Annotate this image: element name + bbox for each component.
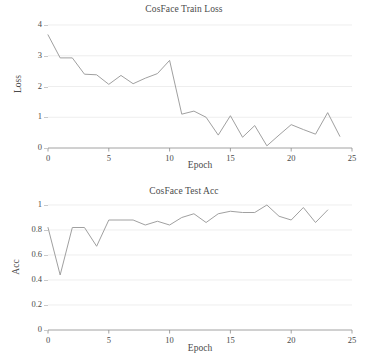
plot-canvas-acc <box>48 205 352 330</box>
x-tick-label-acc: 0 <box>33 335 63 345</box>
x-tick-label-loss: 15 <box>215 153 245 163</box>
x-tick-label-loss: 10 <box>155 153 185 163</box>
x-tick-label-acc: 5 <box>94 335 124 345</box>
y-tick-label-acc: 0.8 <box>8 224 42 234</box>
x-tick-label-acc: 15 <box>215 335 245 345</box>
y-tick-mark <box>44 230 48 231</box>
data-series-line <box>48 35 340 146</box>
y-tick-label-acc: 0 <box>8 324 42 334</box>
plot-canvas-loss <box>48 25 352 148</box>
train-loss-chart: CosFace Train Loss Loss Epoch 0123405101… <box>0 0 368 182</box>
chart-title-train-loss: CosFace Train Loss <box>0 4 368 14</box>
y-tick-mark <box>44 205 48 206</box>
y-tick-mark <box>44 305 48 306</box>
data-series-line <box>48 205 328 275</box>
y-tick-label-acc: 0.6 <box>8 249 42 259</box>
y-tick-label-acc: 0.2 <box>8 299 42 309</box>
y-tick-label-loss: 0 <box>8 142 42 152</box>
y-tick-label-loss: 3 <box>8 50 42 60</box>
x-tick-label-loss: 20 <box>276 153 306 163</box>
y-tick-mark <box>44 255 48 256</box>
y-tick-mark <box>44 330 48 331</box>
y-tick-mark <box>44 117 48 118</box>
y-tick-label-loss: 2 <box>8 81 42 91</box>
x-tick-label-acc: 25 <box>337 335 367 345</box>
train-loss-plot-area <box>48 25 352 148</box>
x-tick-label-acc: 20 <box>276 335 306 345</box>
x-tick-label-loss: 0 <box>33 153 63 163</box>
y-tick-label-acc: 0.4 <box>8 274 42 284</box>
y-tick-label-loss: 1 <box>8 111 42 121</box>
y-tick-mark <box>44 25 48 26</box>
test-acc-chart: CosFace Test Acc Acc Epoch 00.20.40.60.8… <box>0 182 368 364</box>
test-acc-plot-area <box>48 205 352 330</box>
y-tick-mark <box>44 280 48 281</box>
y-tick-label-loss: 4 <box>8 19 42 29</box>
chart-title-test-acc: CosFace Test Acc <box>0 186 368 196</box>
y-tick-label-acc: 1 <box>8 199 42 209</box>
x-tick-label-loss: 25 <box>337 153 367 163</box>
y-tick-mark <box>44 56 48 57</box>
y-tick-mark <box>44 87 48 88</box>
x-tick-label-acc: 10 <box>155 335 185 345</box>
y-tick-mark <box>44 148 48 149</box>
x-tick-label-loss: 5 <box>94 153 124 163</box>
